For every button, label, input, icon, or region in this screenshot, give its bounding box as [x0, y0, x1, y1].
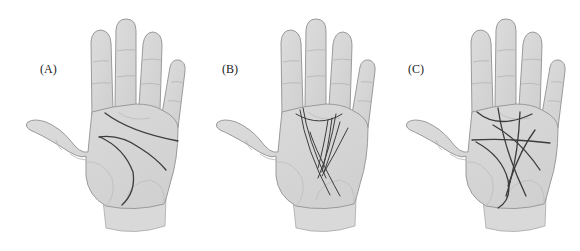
- panel-a: (A): [0, 0, 193, 251]
- hand-illustration-c: [380, 0, 573, 251]
- hand-illustration-b: [190, 0, 383, 251]
- palm-lines-figure: (A) (B) (C): [0, 0, 580, 251]
- panel-b: (B): [190, 0, 383, 251]
- hand-illustration-a: [0, 0, 193, 251]
- panel-c: (C): [380, 0, 573, 251]
